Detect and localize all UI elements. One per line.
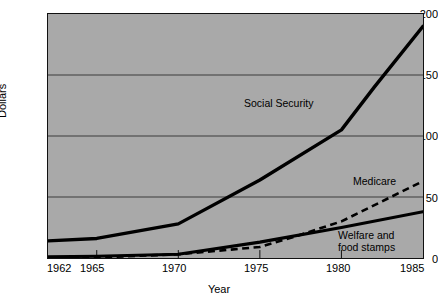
series-label-social-security: Social Security	[244, 97, 313, 109]
x-tick-label-1975: 1975	[244, 263, 268, 274]
series-lines	[48, 14, 423, 258]
series-label-welfare-food-stamps: Welfare and food stamps	[338, 229, 395, 253]
plot-area: Social Security Medicare Welfare and foo…	[47, 13, 424, 259]
x-tick-label-1980: 1980	[326, 263, 350, 274]
y-axis-title: Dollars	[0, 84, 8, 118]
series-label-medicare: Medicare	[353, 175, 396, 187]
x-axis-title: Year	[0, 283, 438, 295]
x-tick-label-1985: 1985	[400, 263, 424, 274]
x-tick-label-1962: 1962	[47, 263, 71, 274]
series-label-welfare-line1: Welfare and	[338, 229, 395, 241]
series-label-welfare-line2: food stamps	[338, 241, 395, 253]
x-tick-label-1965: 1965	[80, 263, 104, 274]
x-tick-label-1970: 1970	[162, 263, 186, 274]
chart-figure: Dollars 0 50 100 150 200 Social Security…	[0, 0, 438, 302]
